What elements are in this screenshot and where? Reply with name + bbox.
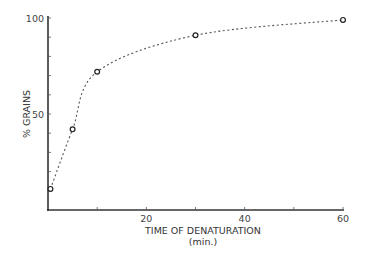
x-tick-label: 20 (140, 213, 152, 224)
y-axis-title: % GRAINS (21, 90, 32, 138)
data-point-marker (48, 186, 53, 191)
data-point-marker (341, 18, 346, 23)
data-point-marker (193, 33, 198, 38)
y-tick-label: 100 (26, 13, 44, 24)
series-line (50, 20, 343, 189)
x-tick-label: 60 (337, 213, 349, 224)
y-tick-label: 50 (32, 109, 44, 120)
x-axis-unit: (min.) (189, 236, 217, 247)
data-point-marker (70, 127, 75, 132)
x-tick-label: 40 (239, 213, 251, 224)
x-axis-title: TIME OF DENATURATION (144, 225, 261, 236)
axes: 50100204060 (26, 13, 349, 224)
chart: 50100204060 TIME OF DENATURATION (min.) … (0, 0, 365, 253)
data-series (48, 18, 345, 192)
data-point-marker (95, 69, 100, 74)
